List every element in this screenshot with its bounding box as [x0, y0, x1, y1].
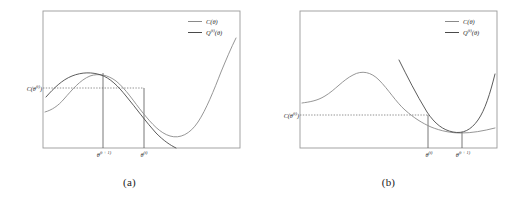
legend-entry-surrogate: Q(t)(θ) [445, 27, 479, 38]
legend-entry-objective: C(θ) [188, 16, 222, 27]
curve-objective-C [45, 38, 236, 137]
panel-b: C(θ) Q(t)(θ) C(θ(t)) θ(t) θ(t + 1) (b) [259, 0, 518, 204]
ylabel-C-theta-t: C(θ(t)) [8, 84, 42, 92]
curve-surrogate-Q [46, 73, 176, 148]
xlabel-theta-t-plus-1: θ(t + 1) [85, 150, 123, 158]
curve-objective-C [302, 72, 495, 133]
figure-container: C(θ) Q(t)(θ) C(θ(t)) θ(t + 1) θ(t) (a) [0, 0, 518, 204]
legend-swatch-objective [445, 21, 459, 22]
legend-label-surrogate: Q(t)(θ) [463, 27, 479, 37]
legend-label-objective: C(θ) [463, 18, 475, 26]
legend-panel-a: C(θ) Q(t)(θ) [188, 16, 222, 38]
legend-swatch-objective [188, 21, 202, 22]
curve-surrogate-Q [399, 60, 495, 133]
caption-panel-b: (b) [259, 176, 518, 188]
xlabel-theta-t: θ(t) [415, 150, 443, 158]
legend-swatch-surrogate [445, 32, 459, 33]
legend-panel-b: C(θ) Q(t)(θ) [445, 16, 479, 38]
xlabel-theta-t-plus-1: θ(t + 1) [444, 150, 482, 158]
xlabel-theta-t: θ(t) [130, 150, 158, 158]
legend-label-surrogate: Q(t)(θ) [206, 27, 222, 37]
legend-entry-surrogate: Q(t)(θ) [188, 27, 222, 38]
caption-panel-a: (a) [0, 176, 259, 188]
panel-a: C(θ) Q(t)(θ) C(θ(t)) θ(t + 1) θ(t) (a) [0, 0, 259, 204]
legend-label-objective: C(θ) [206, 18, 218, 26]
legend-entry-objective: C(θ) [445, 16, 479, 27]
ylabel-C-theta-t: C(θ(t)) [265, 111, 299, 119]
legend-swatch-surrogate [188, 32, 202, 33]
